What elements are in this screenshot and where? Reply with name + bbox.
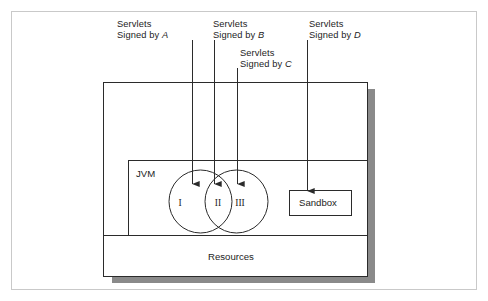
label-d-line2: Signed by D [309,30,361,41]
resources-label: Resources [208,251,254,262]
venn-label-iii: III [232,198,248,208]
label-a-signer: A [162,30,168,40]
label-d-prefix: Signed by [309,30,354,40]
jvm-label: JVM [136,168,155,179]
label-c-line1: Servlets [240,48,292,59]
sandbox-label: Sandbox [299,197,337,208]
label-b-signer: B [258,30,264,40]
label-servlets-signed-by-b: Servlets Signed by B [213,19,264,42]
label-servlets-signed-by-d: Servlets Signed by D [309,19,361,42]
label-b-line2: Signed by B [213,30,264,41]
label-b-prefix: Signed by [213,30,258,40]
label-c-prefix: Signed by [240,59,285,69]
label-a-line1: Servlets [117,19,168,30]
label-c-line2: Signed by C [240,59,292,70]
label-c-signer: C [285,59,292,69]
label-d-signer: D [354,30,361,40]
diagram-figure: Servlets Signed by A Servlets Signed by … [0,0,488,301]
venn-label-ii: II [212,198,224,208]
label-d-line1: Servlets [309,19,361,30]
venn-label-i: I [174,198,186,208]
label-a-prefix: Signed by [117,30,162,40]
label-servlets-signed-by-a: Servlets Signed by A [117,19,168,42]
label-servlets-signed-by-c: Servlets Signed by C [240,48,292,71]
label-b-line1: Servlets [213,19,264,30]
label-a-line2: Signed by A [117,30,168,41]
